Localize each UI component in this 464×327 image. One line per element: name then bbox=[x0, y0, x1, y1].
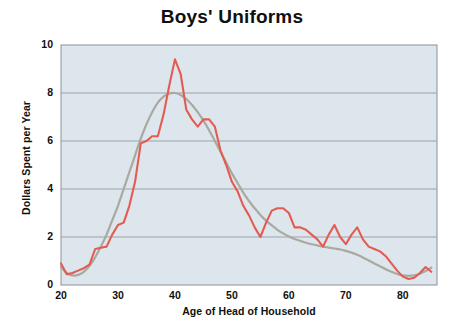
x-tick-label: 60 bbox=[276, 289, 302, 301]
x-tick-label: 30 bbox=[105, 289, 131, 301]
x-tick-label: 70 bbox=[333, 289, 359, 301]
x-tick-label: 80 bbox=[390, 289, 416, 301]
chart-figure: Boys' Uniforms Dollars Spent per Year Ag… bbox=[0, 0, 464, 327]
y-tick-label: 8 bbox=[27, 86, 53, 98]
x-axis-title: Age of Head of Household bbox=[61, 305, 437, 317]
y-tick-label: 2 bbox=[27, 230, 53, 242]
y-tick-label: 6 bbox=[27, 134, 53, 146]
x-tick-label: 50 bbox=[219, 289, 245, 301]
y-tick-label: 10 bbox=[27, 38, 53, 50]
x-tick-label: 20 bbox=[48, 289, 74, 301]
y-tick-label: 4 bbox=[27, 182, 53, 194]
plot-area bbox=[0, 0, 464, 327]
plot-background bbox=[61, 45, 437, 285]
x-tick-label: 40 bbox=[162, 289, 188, 301]
